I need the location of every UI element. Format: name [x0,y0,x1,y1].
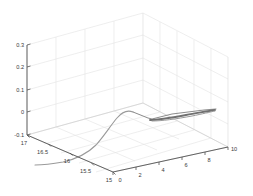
x-tick-label: 2 [138,172,141,178]
z-tick-label: 0.1 [16,87,24,93]
y-tick-label: 15.5 [80,168,91,174]
x-tick-label: 6 [184,162,187,168]
z-tick-label: 0 [21,109,24,115]
z-tick-label: -0.1 [14,132,24,138]
x-tick-label: 10 [231,146,237,152]
z-axis-tick-labels: 0.3 0.2 0.1 0 -0.1 [14,42,24,138]
y-tick-label: 15 [106,177,112,183]
z-tick-label: 0.2 [16,64,24,70]
z-axis-ticks [27,44,31,135]
x-tick-label: 4 [161,167,164,173]
y-tick-label: 16.5 [37,149,48,155]
y-axis-tick-labels: 17 16.5 16 15.5 15 [21,140,112,183]
x-tick-label: 0 [118,177,121,183]
x-axis-line [113,147,228,172]
data-series-steady-tail [133,109,216,121]
z-tick-label: 0.3 [16,42,24,48]
y-tick-label: 17 [21,140,27,146]
figure-3d-plot: 0.3 0.2 0.1 0 -0.1 17 16.5 16 15.5 15 0 … [0,0,253,196]
plot-canvas[interactable]: 0.3 0.2 0.1 0 -0.1 17 16.5 16 15.5 15 0 … [0,0,253,196]
y-tick-label: 16 [64,158,70,164]
grid-pane-left [27,13,143,135]
x-tick-label: 8 [207,157,210,163]
x-axis-tick-labels: 0 2 4 6 8 10 [118,146,237,183]
